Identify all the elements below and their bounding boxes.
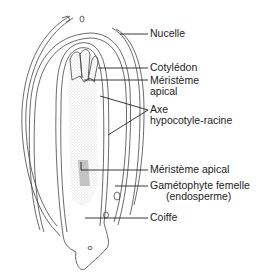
label-text: Méristème apical [150, 163, 229, 175]
label-cotyledon: Cotylédon [150, 62, 197, 73]
label-coiffe: Coiffe [150, 212, 177, 223]
label-nucelle: Nucelle [150, 28, 185, 39]
label-text: Cotylédon [150, 61, 197, 73]
label-axe-hypocotyle-racine: Axe hypocotyle-racine [150, 104, 232, 126]
label-text: apical [150, 86, 199, 97]
label-text: (endosperme) [150, 191, 250, 202]
label-meristeme-apical-top: Méristème apical [150, 75, 199, 97]
label-text: Coiffe [150, 211, 177, 223]
label-meristeme-apical-bottom: Méristème apical [150, 164, 229, 175]
embryo [68, 53, 98, 205]
label-text: hypocotyle-racine [150, 115, 232, 126]
seed-diagram [0, 0, 266, 276]
label-text: Nucelle [150, 27, 185, 39]
label-gametophyte-femelle: Gamétophyte femelle (endosperme) [150, 180, 250, 202]
